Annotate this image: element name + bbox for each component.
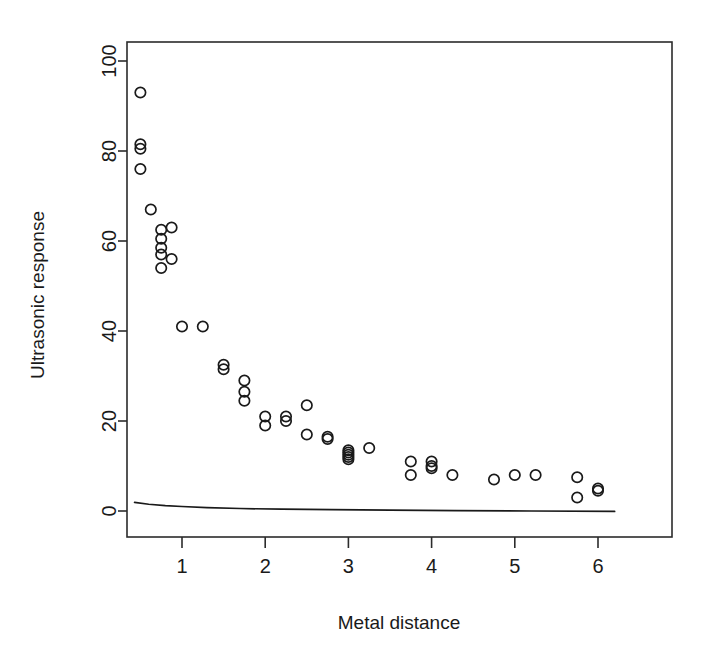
data-point (198, 321, 208, 331)
y-axis-ticks: 020406080100 (98, 44, 127, 516)
data-point (406, 456, 416, 466)
data-point (447, 470, 457, 480)
data-point (239, 375, 249, 385)
plot-panel-box (127, 42, 672, 537)
data-point (177, 321, 187, 331)
data-point (156, 249, 166, 259)
x-axis-title: Metal distance (338, 612, 461, 633)
scatter-plot-figure: 020406080100 123456 Metal distance Ultra… (0, 0, 710, 656)
x-axis-ticks: 123456 (176, 537, 603, 577)
y-tick-label: 20 (98, 410, 120, 432)
x-tick-label: 5 (509, 555, 520, 577)
data-point (572, 472, 582, 482)
y-tick-label: 40 (98, 320, 120, 342)
y-tick-label: 80 (98, 140, 120, 162)
data-point (530, 470, 540, 480)
data-point (489, 474, 499, 484)
data-point (166, 254, 176, 264)
data-point (302, 400, 312, 410)
x-tick-label: 1 (176, 555, 187, 577)
y-tick-label: 0 (98, 505, 120, 516)
y-axis-title: Ultrasonic response (27, 211, 48, 379)
y-tick-label: 100 (98, 44, 120, 77)
data-point (156, 263, 166, 273)
x-tick-label: 3 (343, 555, 354, 577)
data-points-layer (135, 87, 603, 502)
fitted-curve (135, 502, 615, 511)
x-tick-label: 2 (260, 555, 271, 577)
plot-canvas: 020406080100 123456 Metal distance Ultra… (0, 0, 710, 656)
data-point (135, 164, 145, 174)
data-point (135, 87, 145, 97)
data-point (166, 222, 176, 232)
y-tick-label: 60 (98, 230, 120, 252)
data-point (572, 492, 582, 502)
data-point (364, 443, 374, 453)
data-point (146, 204, 156, 214)
data-point (510, 470, 520, 480)
data-point (406, 470, 416, 480)
x-tick-label: 4 (426, 555, 437, 577)
x-tick-label: 6 (592, 555, 603, 577)
data-point (302, 429, 312, 439)
